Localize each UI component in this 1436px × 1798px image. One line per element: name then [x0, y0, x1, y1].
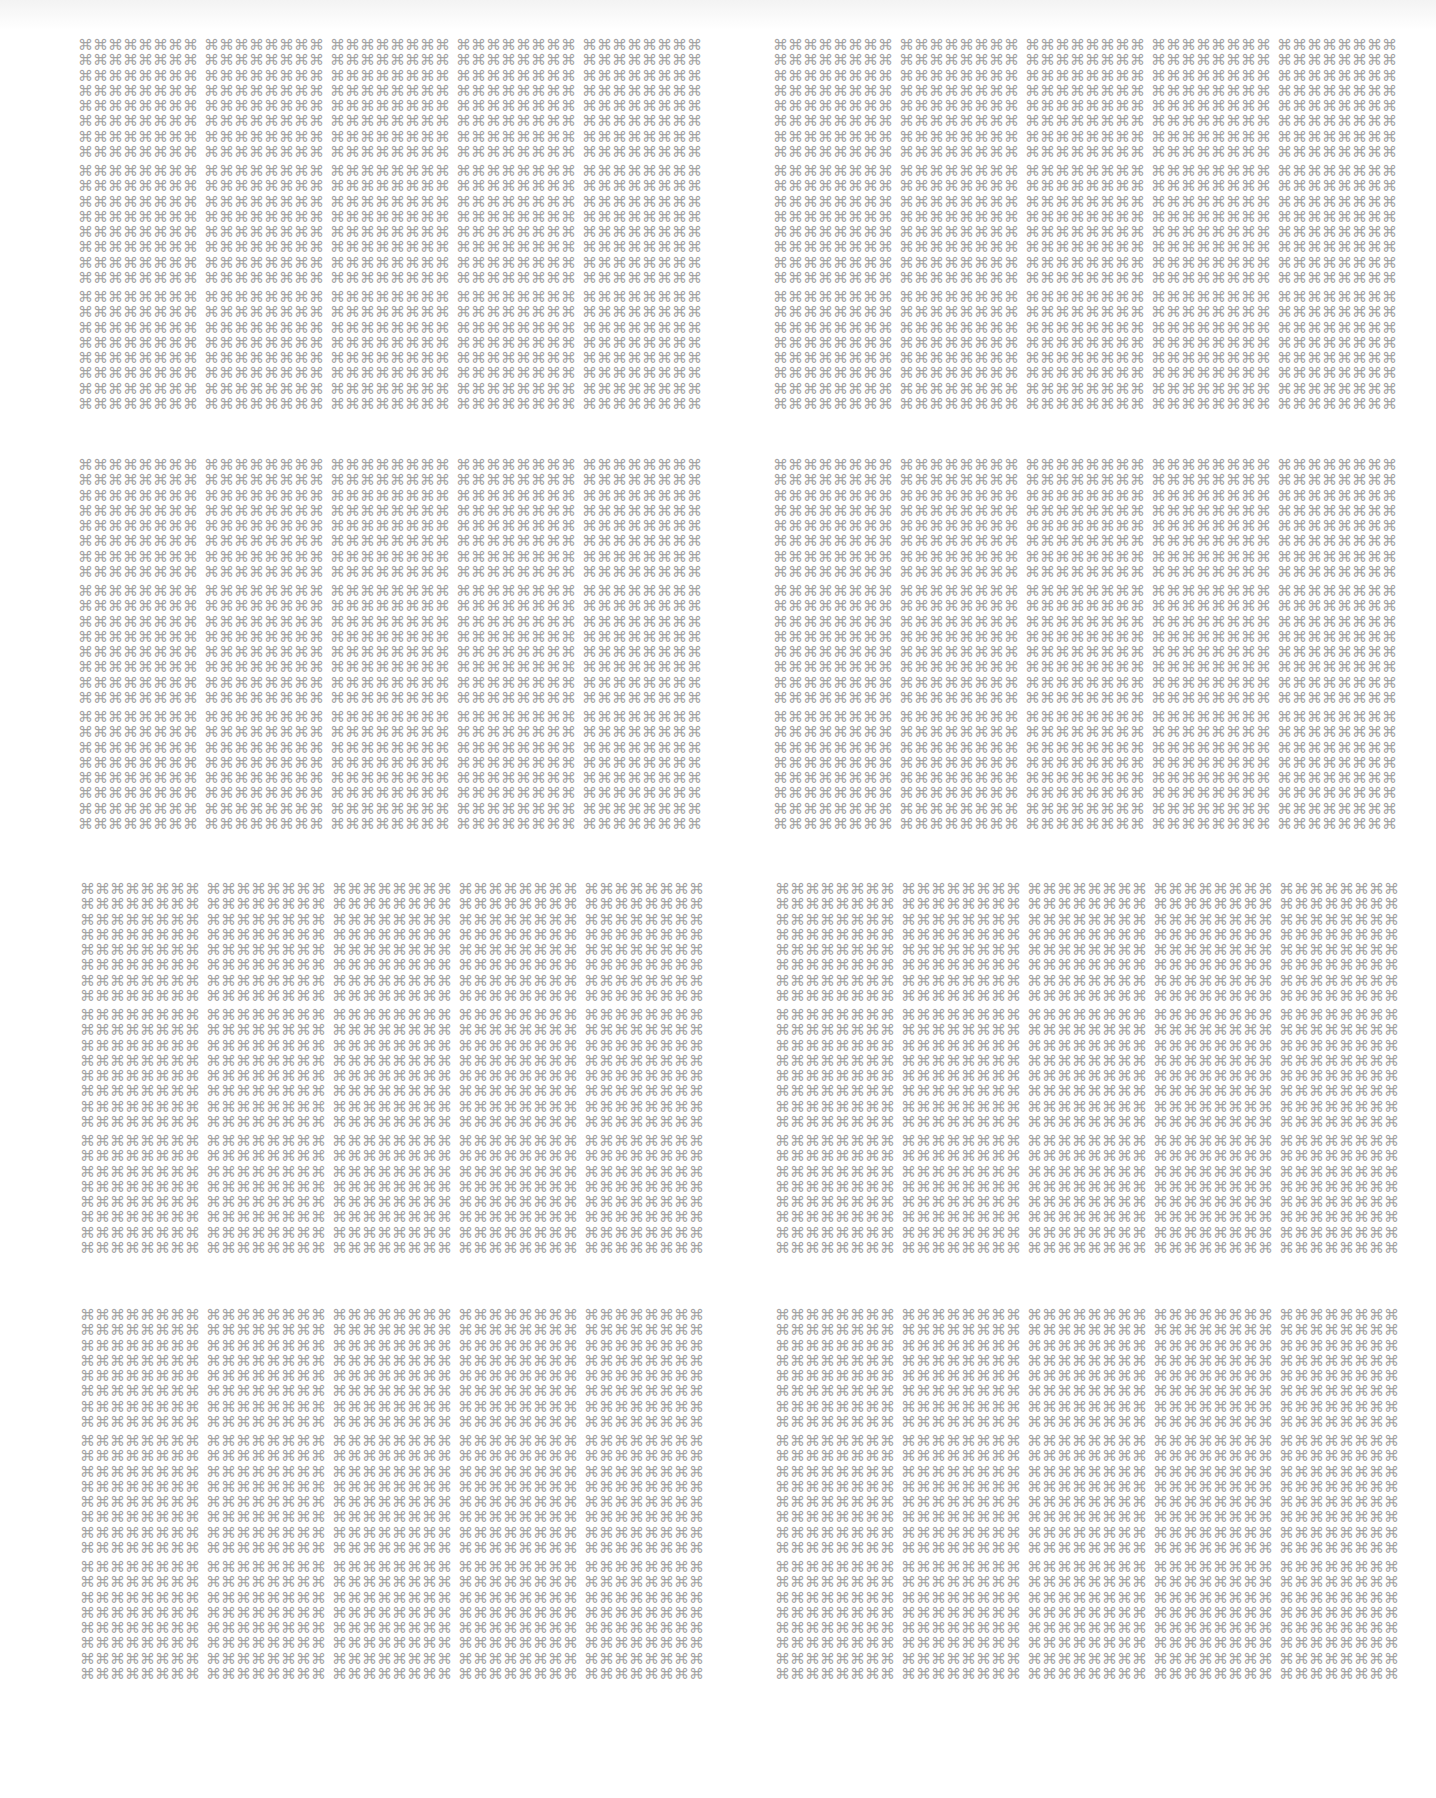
command-key-icon: ⌘: [946, 1149, 961, 1164]
command-key-icon: ⌘: [360, 817, 375, 832]
command-key-icon: ⌘: [309, 179, 324, 194]
command-key-icon: ⌘: [959, 240, 974, 255]
command-key-icon: ⌘: [1258, 1636, 1273, 1651]
command-key-icon: ⌘: [1322, 366, 1337, 381]
command-key-icon: ⌘: [548, 1115, 563, 1130]
command-key-icon: ⌘: [422, 1384, 437, 1399]
command-key-icon: ⌘: [689, 1575, 704, 1590]
command-key-icon: ⌘: [435, 240, 450, 255]
command-key-icon: ⌘: [1322, 271, 1337, 286]
command-key-icon: ⌘: [687, 691, 702, 706]
command-key-icon: ⌘: [974, 271, 989, 286]
command-key-icon: ⌘: [1228, 1323, 1243, 1338]
command-key-icon: ⌘: [1100, 817, 1115, 832]
command-key-icon: ⌘: [1196, 817, 1211, 832]
command-key-icon: ⌘: [95, 958, 110, 973]
command-key-icon: ⌘: [501, 397, 516, 412]
command-key-icon: ⌘: [309, 565, 324, 580]
command-key-icon: ⌘: [1292, 786, 1307, 801]
command-key-icon: ⌘: [1057, 1415, 1072, 1430]
command-key-icon: ⌘: [266, 1636, 281, 1651]
command-key-icon: ⌘: [878, 599, 893, 614]
command-key-icon: ⌘: [1382, 817, 1397, 832]
command-key-icon: ⌘: [1181, 366, 1196, 381]
command-key-icon: ⌘: [503, 1384, 518, 1399]
command-key-icon: ⌘: [516, 53, 531, 68]
pattern-tile: ⌘⌘⌘⌘⌘⌘⌘⌘⌘⌘⌘⌘⌘⌘⌘⌘⌘⌘⌘⌘⌘⌘⌘⌘⌘⌘⌘⌘⌘⌘⌘⌘⌘⌘⌘⌘⌘⌘⌘⌘…: [1027, 1308, 1147, 1430]
command-key-icon: ⌘: [458, 1510, 473, 1525]
command-key-icon: ⌘: [850, 897, 865, 912]
command-key-icon: ⌘: [1115, 366, 1130, 381]
command-key-icon: ⌘: [1337, 179, 1352, 194]
command-key-icon: ⌘: [138, 145, 153, 160]
command-key-icon: ⌘: [1228, 1575, 1243, 1590]
command-key-icon: ⌘: [1102, 1115, 1117, 1130]
command-key-icon: ⌘: [1384, 1115, 1399, 1130]
command-key-icon: ⌘: [1087, 1510, 1102, 1525]
command-key-icon: ⌘: [1279, 1210, 1294, 1225]
command-key-icon: ⌘: [820, 1210, 835, 1225]
command-key-icon: ⌘: [1243, 1667, 1258, 1682]
command-key-icon: ⌘: [835, 897, 850, 912]
command-key-icon: ⌘: [931, 1667, 946, 1682]
command-key-icon: ⌘: [773, 145, 788, 160]
command-key-icon: ⌘: [1324, 1115, 1339, 1130]
command-key-icon: ⌘: [473, 1149, 488, 1164]
command-key-icon: ⌘: [991, 1575, 1006, 1590]
command-key-icon: ⌘: [219, 366, 234, 381]
command-key-icon: ⌘: [234, 397, 249, 412]
command-key-icon: ⌘: [236, 1575, 251, 1590]
command-key-icon: ⌘: [1070, 397, 1085, 412]
command-key-icon: ⌘: [1132, 1575, 1147, 1590]
command-key-icon: ⌘: [1354, 1667, 1369, 1682]
command-key-icon: ⌘: [1025, 179, 1040, 194]
command-key-icon: ⌘: [1279, 958, 1294, 973]
command-key-icon: ⌘: [1151, 145, 1166, 160]
command-key-icon: ⌘: [674, 897, 689, 912]
command-key-icon: ⌘: [880, 1149, 895, 1164]
command-key-icon: ⌘: [561, 53, 576, 68]
command-key-icon: ⌘: [561, 240, 576, 255]
command-key-icon: ⌘: [1226, 786, 1241, 801]
command-key-icon: ⌘: [110, 1510, 125, 1525]
command-key-icon: ⌘: [1213, 1023, 1228, 1038]
command-key-icon: ⌘: [234, 786, 249, 801]
command-key-icon: ⌘: [221, 1449, 236, 1464]
command-key-icon: ⌘: [944, 565, 959, 580]
command-key-icon: ⌘: [110, 1415, 125, 1430]
command-key-icon: ⌘: [309, 145, 324, 160]
command-key-icon: ⌘: [880, 1415, 895, 1430]
command-key-icon: ⌘: [944, 240, 959, 255]
command-key-icon: ⌘: [597, 240, 612, 255]
command-key-icon: ⌘: [644, 1667, 659, 1682]
command-key-icon: ⌘: [362, 1575, 377, 1590]
command-key-icon: ⌘: [332, 1541, 347, 1556]
command-key-icon: ⌘: [437, 1415, 452, 1430]
command-key-icon: ⌘: [170, 1023, 185, 1038]
command-key-icon: ⌘: [1337, 599, 1352, 614]
command-key-icon: ⌘: [1292, 53, 1307, 68]
command-key-icon: ⌘: [1153, 1084, 1168, 1099]
command-key-icon: ⌘: [219, 725, 234, 740]
command-key-icon: ⌘: [803, 725, 818, 740]
command-key-icon: ⌘: [788, 817, 803, 832]
command-key-icon: ⌘: [95, 1115, 110, 1130]
command-key-icon: ⌘: [974, 565, 989, 580]
command-key-icon: ⌘: [390, 660, 405, 675]
command-key-icon: ⌘: [659, 1149, 674, 1164]
command-key-icon: ⌘: [689, 989, 704, 1004]
command-key-icon: ⌘: [899, 565, 914, 580]
command-key-icon: ⌘: [599, 1667, 614, 1682]
command-key-icon: ⌘: [659, 897, 674, 912]
command-key-icon: ⌘: [437, 1084, 452, 1099]
command-key-icon: ⌘: [80, 1449, 95, 1464]
command-key-icon: ⌘: [330, 145, 345, 160]
command-key-icon: ⌘: [1087, 1636, 1102, 1651]
command-key-icon: ⌘: [155, 1510, 170, 1525]
command-key-icon: ⌘: [1151, 271, 1166, 286]
command-key-icon: ⌘: [961, 1115, 976, 1130]
command-key-icon: ⌘: [1258, 1084, 1273, 1099]
command-key-icon: ⌘: [563, 1241, 578, 1256]
command-key-icon: ⌘: [880, 1084, 895, 1099]
command-key-icon: ⌘: [629, 1241, 644, 1256]
